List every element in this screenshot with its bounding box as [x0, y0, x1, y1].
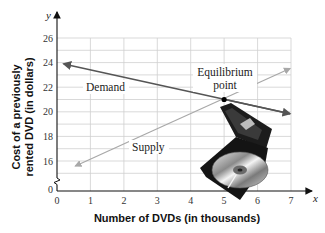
svg-text:rented DVD (in dollars): rented DVD (in dollars) [23, 57, 35, 177]
svg-text:Equilibrium: Equilibrium [197, 66, 253, 79]
x-axis-letter: x [312, 192, 318, 204]
svg-text:4: 4 [188, 195, 193, 206]
svg-text:0: 0 [55, 195, 60, 206]
supply-demand-chart: y x 26 24 22 20 18 16 0 0 1 2 3 4 5 6 7 … [0, 0, 325, 233]
svg-text:5: 5 [222, 195, 227, 206]
axes [54, 12, 312, 191]
x-tick-labels: 0 1 2 3 4 5 6 7 [55, 195, 294, 206]
svg-text:1: 1 [88, 195, 93, 206]
svg-text:26: 26 [43, 33, 53, 44]
svg-text:18: 18 [43, 131, 53, 142]
svg-text:Cost of a previously: Cost of a previously [10, 64, 22, 170]
y-axis-title: Cost of a previously rented DVD (in doll… [10, 57, 35, 177]
svg-text:0: 0 [48, 184, 53, 195]
svg-text:6: 6 [255, 195, 260, 206]
x-axis-title: Number of DVDs (in thousands) [94, 212, 261, 224]
y-tick-labels: 26 24 22 20 18 16 0 [43, 33, 53, 196]
dvd-case-photo [200, 103, 272, 200]
svg-text:24: 24 [43, 57, 53, 68]
svg-text:22: 22 [43, 82, 53, 93]
equilibrium-marker [222, 97, 227, 102]
y-axis-letter: y [45, 9, 51, 21]
svg-text:3: 3 [155, 195, 160, 206]
supply-label: Supply [129, 140, 169, 154]
svg-text:Demand: Demand [86, 81, 125, 93]
svg-text:2: 2 [121, 195, 126, 206]
svg-text:20: 20 [43, 106, 53, 117]
demand-label: Demand [83, 80, 129, 94]
svg-text:Supply: Supply [132, 141, 165, 154]
equilibrium-label: Equilibrium point [193, 64, 257, 92]
svg-text:point: point [213, 79, 237, 92]
axis-break-icon [54, 178, 60, 185]
svg-text:7: 7 [289, 195, 294, 206]
svg-text:16: 16 [43, 156, 53, 167]
